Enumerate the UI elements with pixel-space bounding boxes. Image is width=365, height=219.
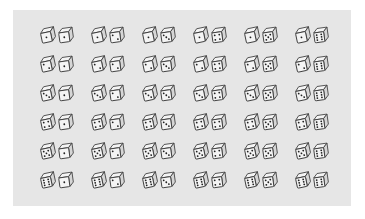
die-right-face-2-icon — [108, 142, 126, 160]
die-left-face-2-icon — [39, 55, 57, 73]
dice-pair-5-6 — [286, 136, 337, 165]
dice-pair-4-5 — [235, 107, 286, 136]
die-right-face-3-icon — [159, 142, 177, 160]
dice-pair-5-3 — [133, 136, 184, 165]
die-right-face-6-icon — [312, 26, 330, 44]
die-left-face-5-icon — [192, 142, 210, 160]
dice-pair-5-5 — [235, 136, 286, 165]
die-left-face-6-icon — [192, 171, 210, 189]
die-left-face-1-icon — [90, 26, 108, 44]
die-left-face-5-icon — [90, 142, 108, 160]
die-right-face-2-icon — [108, 113, 126, 131]
die-right-face-3-icon — [159, 84, 177, 102]
die-right-face-3-icon — [159, 171, 177, 189]
die-right-face-6-icon — [312, 84, 330, 102]
die-left-face-5-icon — [294, 142, 312, 160]
die-right-face-1-icon — [57, 142, 75, 160]
die-left-face-4-icon — [192, 113, 210, 131]
die-right-face-1-icon — [57, 55, 75, 73]
die-right-face-1-icon — [57, 171, 75, 189]
dice-pair-4-6 — [286, 107, 337, 136]
dice-pair-4-2 — [82, 107, 133, 136]
die-right-face-4-icon — [210, 113, 228, 131]
dice-pair-1-2 — [82, 20, 133, 49]
die-right-face-5-icon — [261, 113, 279, 131]
dice-pair-6-4 — [184, 165, 235, 194]
die-left-face-2-icon — [243, 55, 261, 73]
die-right-face-1-icon — [57, 113, 75, 131]
die-left-face-4-icon — [39, 113, 57, 131]
die-right-face-6-icon — [312, 171, 330, 189]
die-left-face-1-icon — [192, 26, 210, 44]
die-right-face-4-icon — [210, 55, 228, 73]
die-right-face-4-icon — [210, 84, 228, 102]
dice-pair-6-3 — [133, 165, 184, 194]
die-right-face-5-icon — [261, 84, 279, 102]
die-right-face-6-icon — [312, 55, 330, 73]
dice-pair-1-6 — [286, 20, 337, 49]
die-right-face-2-icon — [108, 84, 126, 102]
die-left-face-3-icon — [243, 84, 261, 102]
dice-pair-6-2 — [82, 165, 133, 194]
die-left-face-6-icon — [294, 171, 312, 189]
die-left-face-2-icon — [90, 55, 108, 73]
die-left-face-3-icon — [294, 84, 312, 102]
die-right-face-2-icon — [108, 55, 126, 73]
die-left-face-2-icon — [141, 55, 159, 73]
dice-pair-2-6 — [286, 49, 337, 78]
die-right-face-1-icon — [57, 26, 75, 44]
die-left-face-1-icon — [39, 26, 57, 44]
dice-pair-3-2 — [82, 78, 133, 107]
dice-pair-4-1 — [31, 107, 82, 136]
die-left-face-4-icon — [294, 113, 312, 131]
dice-pair-1-5 — [235, 20, 286, 49]
dice-pair-2-3 — [133, 49, 184, 78]
dice-pair-2-1 — [31, 49, 82, 78]
die-left-face-2-icon — [192, 55, 210, 73]
die-right-face-6-icon — [312, 113, 330, 131]
die-left-face-6-icon — [141, 171, 159, 189]
dice-pair-1-1 — [31, 20, 82, 49]
die-left-face-6-icon — [39, 171, 57, 189]
dice-pair-6-1 — [31, 165, 82, 194]
die-left-face-1-icon — [294, 26, 312, 44]
dice-pair-6-6 — [286, 165, 337, 194]
die-left-face-3-icon — [141, 84, 159, 102]
dice-pair-2-2 — [82, 49, 133, 78]
dice-pair-6-5 — [235, 165, 286, 194]
dice-pair-5-2 — [82, 136, 133, 165]
die-left-face-4-icon — [141, 113, 159, 131]
dice-pair-5-4 — [184, 136, 235, 165]
die-right-face-4-icon — [210, 26, 228, 44]
die-left-face-1-icon — [141, 26, 159, 44]
die-right-face-3-icon — [159, 55, 177, 73]
die-right-face-1-icon — [57, 84, 75, 102]
die-left-face-3-icon — [39, 84, 57, 102]
dice-pair-3-1 — [31, 78, 82, 107]
die-left-face-4-icon — [90, 113, 108, 131]
die-right-face-4-icon — [210, 171, 228, 189]
die-right-face-5-icon — [261, 26, 279, 44]
dice-pair-2-5 — [235, 49, 286, 78]
dice-pair-4-4 — [184, 107, 235, 136]
die-right-face-6-icon — [312, 142, 330, 160]
dice-pair-4-3 — [133, 107, 184, 136]
dice-pair-3-3 — [133, 78, 184, 107]
die-right-face-2-icon — [108, 171, 126, 189]
dice-outcomes-panel — [13, 10, 351, 206]
dice-pair-1-4 — [184, 20, 235, 49]
dice-pair-1-3 — [133, 20, 184, 49]
die-left-face-6-icon — [90, 171, 108, 189]
die-right-face-3-icon — [159, 113, 177, 131]
die-left-face-3-icon — [192, 84, 210, 102]
die-right-face-3-icon — [159, 26, 177, 44]
die-left-face-5-icon — [243, 142, 261, 160]
die-left-face-4-icon — [243, 113, 261, 131]
die-left-face-1-icon — [243, 26, 261, 44]
die-left-face-3-icon — [90, 84, 108, 102]
dice-pair-3-6 — [286, 78, 337, 107]
dice-outcome-grid — [31, 20, 337, 194]
die-left-face-2-icon — [294, 55, 312, 73]
dice-pair-2-4 — [184, 49, 235, 78]
dice-pair-3-5 — [235, 78, 286, 107]
